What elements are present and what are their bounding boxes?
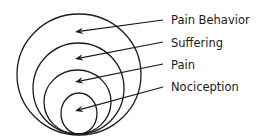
arrow-suffering: [75, 42, 163, 61]
label-pain-behavior: Pain Behavior: [171, 13, 250, 27]
arrow-pain-behavior: [75, 20, 163, 34]
labels: Pain Behavior Suffering Pain Nociception: [171, 13, 250, 94]
arrow-line: [81, 20, 163, 31]
arrow-line: [81, 64, 163, 81]
label-pain: Pain: [171, 58, 195, 72]
ring-nociception: [61, 93, 97, 134]
arrow-line: [81, 87, 163, 109]
label-suffering: Suffering: [171, 36, 223, 50]
pain-model-diagram: Pain Behavior Suffering Pain Nociception: [0, 0, 258, 139]
label-nociception: Nociception: [171, 80, 239, 94]
arrow-line: [81, 42, 163, 58]
arrows: [75, 20, 163, 112]
ring-pain: [44, 70, 111, 134]
